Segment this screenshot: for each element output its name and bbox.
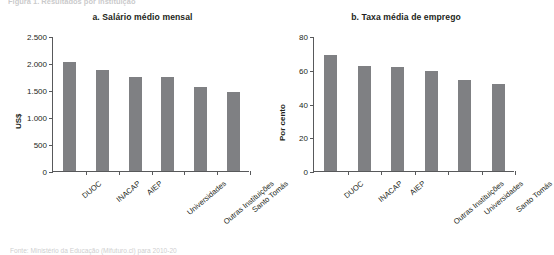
x-axis-tick (348, 171, 349, 175)
x-axis-tick (152, 171, 153, 175)
bar (63, 62, 76, 171)
bar (129, 77, 142, 171)
chart-panel-a: a. Salário médio mensal US$ 05001.0001.5… (0, 9, 267, 237)
chart-a-title: a. Salário médio mensal (0, 12, 267, 22)
x-axis-tick (250, 171, 251, 175)
x-axis-tick-label: AIEP (145, 179, 164, 197)
y-axis-tick (310, 71, 314, 72)
x-axis-tick (415, 171, 416, 175)
y-axis-tick-label: 0 (43, 168, 47, 177)
chart-a-y-axis-label: US$ (14, 113, 23, 129)
x-axis-tick (448, 171, 449, 175)
y-axis-tick-label: 500 (34, 141, 47, 150)
y-axis-tick-label: 80 (299, 33, 308, 42)
y-axis-tick (49, 172, 53, 173)
y-axis-tick (49, 91, 53, 92)
x-axis-tick (217, 171, 218, 175)
bar (324, 55, 337, 171)
y-axis-tick (49, 145, 53, 146)
x-axis-tick (86, 171, 87, 175)
y-axis-tick-label: 20 (299, 134, 308, 143)
y-axis-tick-label: 40 (299, 100, 308, 109)
y-axis-tick (49, 64, 53, 65)
bar (492, 84, 505, 171)
bar (425, 71, 438, 171)
y-axis-tick (49, 37, 53, 38)
y-axis-tick (310, 37, 314, 38)
x-axis-tick (184, 171, 185, 175)
bar (194, 87, 207, 171)
x-axis-tick (381, 171, 382, 175)
bar (458, 80, 471, 171)
y-axis-tick (310, 105, 314, 106)
x-axis-tick (119, 171, 120, 175)
x-axis-tick-label: Universidades (185, 179, 228, 217)
y-axis-tick-label: 60 (299, 66, 308, 75)
charts-container: a. Salário médio mensal US$ 05001.0001.5… (0, 9, 535, 237)
bar (391, 67, 404, 171)
bar (358, 66, 371, 171)
x-axis-tick-label: DUOC (81, 179, 104, 200)
chart-a-plot-area: 05001.0001.5002.0002.500DUOCINACAPAIEPUn… (52, 37, 249, 172)
y-axis-tick (310, 138, 314, 139)
chart-b-title: b. Taxa média de emprego (267, 12, 535, 22)
y-axis-tick (49, 118, 53, 119)
chart-panel-b: b. Taxa média de emprego Por cento 02040… (267, 9, 535, 237)
figure-header-text: Figura 1. Resultados por instituição (8, 0, 535, 6)
figure-source-note: Fonte: Ministério da Educação (Mifuturo.… (10, 247, 177, 254)
chart-b-y-axis-label: Por cento (278, 104, 287, 141)
y-axis-tick-label: 0 (304, 168, 308, 177)
bar (96, 70, 109, 171)
x-axis-tick-label: AIEP (408, 179, 427, 197)
x-axis-tick (482, 171, 483, 175)
y-axis-tick (310, 172, 314, 173)
bar (161, 77, 174, 171)
y-axis-tick-label: 2.500 (27, 33, 47, 42)
chart-b-plot-area: 020406080DUOCINACAPAIEPOutras Instituiçõ… (313, 37, 514, 172)
bar (227, 92, 240, 171)
x-axis-tick-label: INACAP (115, 179, 142, 204)
figure-header: Figura 1. Resultados por instituição (0, 0, 535, 9)
x-axis-tick-label: INACAP (377, 179, 404, 204)
x-axis-tick (515, 171, 516, 175)
y-axis-tick-label: 2.000 (27, 60, 47, 69)
x-axis-tick-label: DUOC (342, 179, 365, 200)
y-axis-tick-label: 1.000 (27, 114, 47, 123)
y-axis-tick-label: 1.500 (27, 87, 47, 96)
